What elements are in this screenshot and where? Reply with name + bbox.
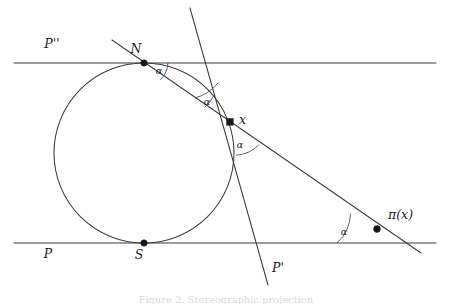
label-alpha-at-pi-x: α <box>341 226 348 237</box>
label-point-n: N <box>130 41 143 56</box>
point-n <box>141 60 147 66</box>
label-alpha-at-n: α <box>156 65 163 76</box>
label-p-double-prime: P'' <box>43 36 59 51</box>
tangent-circle <box>54 63 234 243</box>
label-point-x: x <box>239 112 246 127</box>
point-x <box>227 119 234 126</box>
label-p: P <box>43 246 53 261</box>
figure-caption: Figure 2. Stereographic projection <box>0 293 452 304</box>
label-point-s: S <box>135 247 144 262</box>
point-pi-x <box>374 226 381 233</box>
label-alpha-upper-at-x: α <box>204 96 211 107</box>
point-s <box>141 240 147 246</box>
label-alpha-lower-at-x: α <box>237 139 244 150</box>
label-point-pi-x: π(x) <box>387 207 413 222</box>
label-p-prime: P' <box>271 260 284 275</box>
